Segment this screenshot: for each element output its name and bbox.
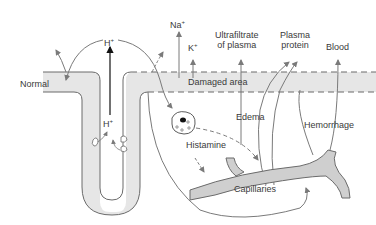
label-h-inner: H+ [103,116,113,129]
label-damaged-area: Damaged area [188,77,248,87]
label-ultrafiltrate: Ultrafiltrateof plasma [215,30,259,50]
mast-cell [172,112,195,134]
diagram-canvas [0,0,376,225]
label-normal: Normal [20,79,49,89]
label-h-top: H+ [104,35,114,48]
label-na: Na+ [170,17,185,30]
label-hemorrhage: Hemorrhage [304,120,354,130]
label-plasma-protein: Plasmaprotein [280,30,310,50]
loop-arrow [148,92,307,217]
label-histamine: Histamine [186,140,226,150]
label-blood: Blood [326,42,349,52]
histamine-down-arrow [195,158,204,172]
label-capillaries: Capillaries [234,184,276,194]
label-k: K+ [188,40,198,53]
label-edema: Edema [236,112,265,122]
